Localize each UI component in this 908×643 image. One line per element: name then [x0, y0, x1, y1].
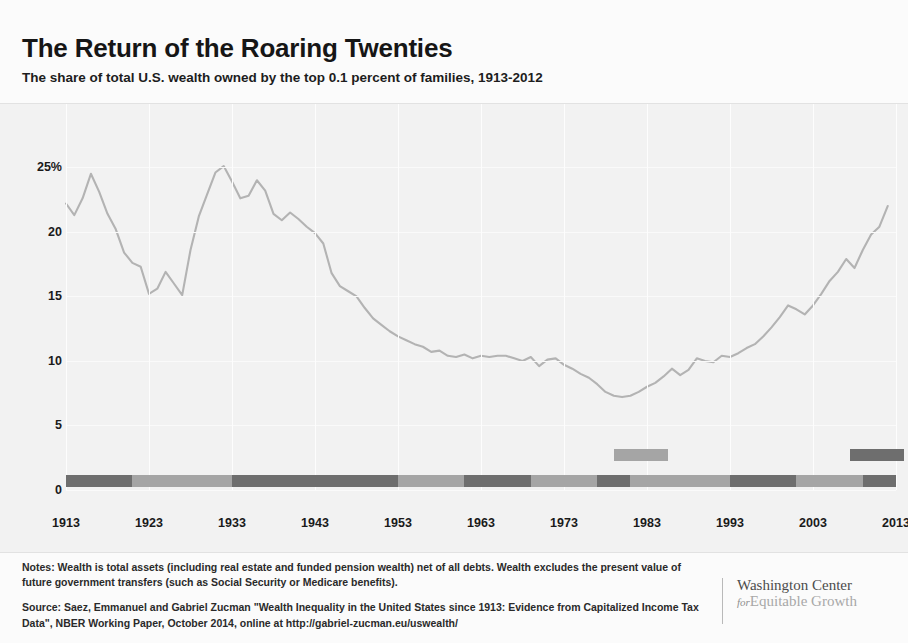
page-title: The Return of the Roaring Twenties	[22, 34, 892, 63]
x-axis-tick-label: 1973	[550, 516, 578, 530]
gridline-vertical	[896, 104, 897, 490]
logo-line-2: forEquitable Growth	[737, 594, 897, 610]
plot-area	[66, 148, 896, 490]
y-axis-tick-label: 25%	[16, 160, 62, 174]
gridline-horizontal	[66, 490, 896, 491]
notes-text: Notes: Wealth is total assets (including…	[22, 560, 702, 590]
chart-footer: Notes: Wealth is total assets (including…	[22, 560, 702, 641]
y-axis-tick-label: 0	[16, 483, 62, 497]
party-bar-segment-dark	[66, 475, 132, 487]
source-text: Source: Saez, Emmanuel and Gabriel Zucma…	[22, 600, 702, 630]
x-axis-tick-label: 1993	[716, 516, 744, 530]
y-axis-tick-label: 20	[16, 225, 62, 239]
party-bar-segment-dark	[863, 475, 896, 487]
legend-key-light	[614, 449, 668, 461]
x-axis-tick-label: 1963	[467, 516, 495, 530]
chart-subtitle: The share of total U.S. wealth owned by …	[22, 70, 892, 86]
x-axis-tick-label: 1923	[135, 516, 163, 530]
gridline-vertical	[66, 104, 67, 490]
series-polyline	[66, 166, 888, 397]
party-bar-segment-light	[531, 475, 597, 487]
party-bar-segment-light	[398, 475, 464, 487]
party-bar-segment-light	[796, 475, 862, 487]
y-axis-tick-label: 15	[16, 289, 62, 303]
party-bar-segment-dark	[597, 475, 630, 487]
gridline-vertical	[481, 104, 482, 490]
party-bar-segment-light	[132, 475, 232, 487]
chart-header: The Return of the Roaring Twenties The s…	[22, 34, 892, 86]
party-control-bar	[66, 475, 896, 487]
gridline-vertical	[564, 104, 565, 490]
logo-for-word: for	[737, 596, 750, 608]
logo-line-2-text: Equitable Growth	[750, 593, 857, 609]
organization-logo: Washington Center forEquitable Growth	[722, 578, 897, 624]
gridline-vertical	[730, 104, 731, 490]
legend-key-dark	[850, 449, 904, 461]
x-axis-tick-label: 1943	[301, 516, 329, 530]
y-axis-tick-label: 10	[16, 354, 62, 368]
gridline-vertical	[813, 104, 814, 490]
x-axis-tick-label: 2013	[882, 516, 908, 530]
gridline-vertical	[647, 104, 648, 490]
x-axis-tick-label: 1933	[218, 516, 246, 530]
x-axis-tick-label: 1983	[633, 516, 661, 530]
party-bar-segment-light	[630, 475, 730, 487]
logo-line-1: Washington Center	[737, 578, 897, 594]
party-bar-segment-dark	[464, 475, 530, 487]
party-bar-segment-dark	[232, 475, 398, 487]
y-axis-tick-label: 5	[16, 418, 62, 432]
chart-page: The Return of the Roaring Twenties The s…	[0, 0, 908, 643]
x-axis-tick-label: 2003	[799, 516, 827, 530]
x-axis: 1913192319331943195319631973198319932003…	[66, 516, 896, 542]
gridline-vertical	[315, 104, 316, 490]
x-axis-tick-label: 1913	[52, 516, 80, 530]
y-axis: 0510152025%	[0, 104, 62, 552]
gridline-vertical	[398, 104, 399, 490]
party-bar-segment-dark	[730, 475, 796, 487]
gridline-vertical	[149, 104, 150, 490]
x-axis-tick-label: 1953	[384, 516, 412, 530]
gridline-vertical	[232, 104, 233, 490]
plot-panel: 0510152025% 1913192319331943195319631973…	[0, 103, 908, 553]
